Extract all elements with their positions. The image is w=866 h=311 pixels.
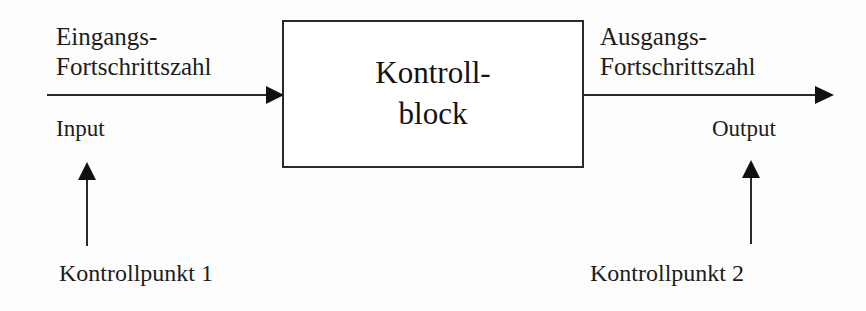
output-flow-arrow bbox=[584, 86, 834, 104]
input-flow-label-line2: Fortschrittszahl bbox=[56, 52, 212, 81]
diagram-canvas: Eingangs- Fortschrittszahl Input Ausgang… bbox=[0, 0, 866, 311]
input-flow-label-line1: Eingangs- bbox=[56, 22, 157, 51]
input-io-label: Input bbox=[56, 116, 105, 143]
checkpoint-2-arrow bbox=[742, 160, 760, 244]
checkpoint-1-label: Kontrollpunkt 1 bbox=[59, 260, 213, 288]
output-io-label: Output bbox=[712, 116, 776, 143]
output-flow-label-line2: Fortschrittszahl bbox=[600, 52, 756, 81]
output-flow-label-line1: Ausgangs- bbox=[600, 22, 707, 51]
control-block-label-line2: block bbox=[282, 93, 584, 134]
checkpoint-2-label: Kontrollpunkt 2 bbox=[590, 260, 744, 288]
control-block-label-line1: Kontroll- bbox=[282, 52, 584, 93]
checkpoint-1-arrow bbox=[78, 162, 96, 246]
input-flow-arrow bbox=[47, 86, 284, 104]
